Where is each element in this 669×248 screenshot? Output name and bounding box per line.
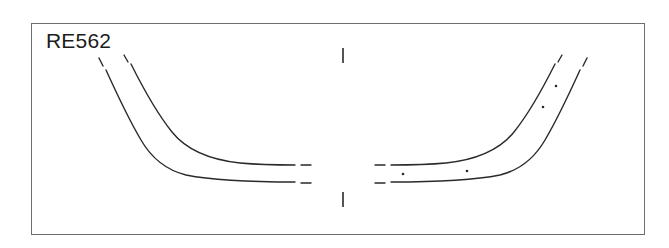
figure-frame: [31, 23, 645, 235]
figure-page: RE562: [0, 0, 669, 248]
specimen-label: RE562: [46, 30, 111, 51]
